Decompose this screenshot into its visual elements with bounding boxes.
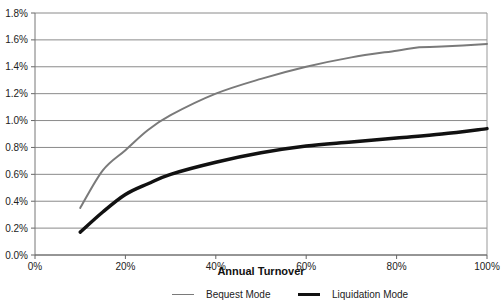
y-tick-label: 1.0% [5,115,28,126]
bequest-mode-line [80,44,487,208]
y-tick-label: 0.4% [5,196,28,207]
y-tick-label: 0.0% [5,250,28,261]
line-chart: 0.0%0.2%0.4%0.6%0.8%1.0%1.2%1.4%1.6%1.8%… [0,0,501,290]
y-tick-label: 0.8% [5,142,28,153]
y-tick-label: 1.2% [5,88,28,99]
y-axis-ticks: 0.0%0.2%0.4%0.6%0.8%1.0%1.2%1.4%1.6%1.8% [5,8,28,261]
y-tick-label: 0.2% [5,223,28,234]
legend-swatch-liquidation [298,293,320,296]
x-tick-label: 0% [28,261,43,272]
y-tick-label: 1.4% [5,61,28,72]
legend-item-bequest: Bequest Mode [172,289,271,300]
legend: Bequest Mode Liquidation Mode [0,289,501,305]
axes [35,13,487,255]
x-tick-label: 80% [387,261,407,272]
legend-label-bequest: Bequest Mode [206,289,271,300]
legend-item-liquidation: Liquidation Mode [298,289,408,300]
liquidation-mode-line [80,129,487,233]
y-tick-label: 1.6% [5,34,28,45]
x-tick-label: 100% [474,261,500,272]
x-tick-label: 20% [115,261,135,272]
y-tick-label: 0.6% [5,169,28,180]
y-tick-label: 1.8% [5,8,28,19]
legend-swatch-bequest [172,294,194,295]
legend-label-liquidation: Liquidation Mode [332,289,408,300]
x-axis-label: Annual Turnover [217,265,305,277]
series-lines [80,44,487,232]
